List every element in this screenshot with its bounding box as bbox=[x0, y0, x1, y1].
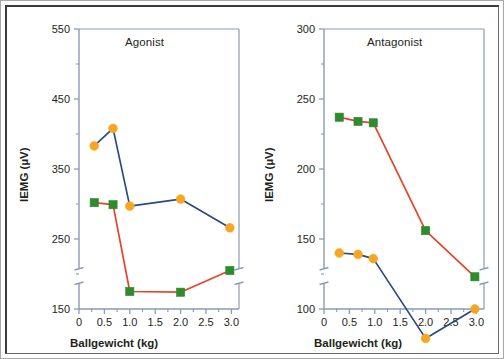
y-tick-label: 100 bbox=[297, 303, 315, 315]
data-point-square bbox=[126, 287, 134, 295]
y-tick-label: 150 bbox=[52, 303, 70, 315]
x-tick-label: 3.0 bbox=[224, 316, 239, 328]
x-tick-label: 3.0 bbox=[469, 316, 484, 328]
y-axis-label-agonist: IEMG (µV) bbox=[18, 147, 30, 202]
figure-outer-frame: 15025035045055000.51.01.52.02.53.0 Agoni… bbox=[0, 0, 504, 359]
x-axis-label-antagonist: Ballgewicht (kg) bbox=[314, 337, 402, 349]
y-tick-label: 250 bbox=[52, 233, 70, 245]
figure-inner-frame: 15025035045055000.51.01.52.02.53.0 Agoni… bbox=[5, 5, 499, 354]
data-point-circle bbox=[369, 254, 378, 263]
x-tick-label: 0.5 bbox=[342, 316, 357, 328]
data-point-square bbox=[354, 117, 362, 125]
data-point-circle bbox=[109, 124, 118, 133]
chart-panel-antagonist: 10015020025030000.51.01.52.02.53.0 Antag… bbox=[254, 7, 499, 356]
data-point-square bbox=[471, 273, 479, 281]
plot-area-antagonist: 10015020025030000.51.01.52.02.53.0 bbox=[254, 7, 499, 356]
data-point-circle bbox=[354, 250, 363, 259]
data-point-circle bbox=[335, 249, 344, 258]
x-tick-label: 1.5 bbox=[148, 316, 163, 328]
y-axis-label-antagonist: IEMG (µV) bbox=[263, 147, 275, 202]
x-tick-label: 0 bbox=[321, 316, 327, 328]
y-tick-label: 200 bbox=[297, 163, 315, 175]
data-point-circle bbox=[176, 195, 185, 204]
x-tick-label: 2.0 bbox=[418, 316, 433, 328]
x-tick-label: 2.0 bbox=[173, 316, 188, 328]
data-point-square bbox=[90, 199, 98, 207]
chart-panel-agonist: 15025035045055000.51.01.52.02.53.0 Agoni… bbox=[7, 7, 254, 356]
x-tick-label: 0.5 bbox=[97, 316, 112, 328]
panel-title-agonist: Agonist bbox=[125, 36, 164, 48]
plot-area-agonist: 15025035045055000.51.01.52.02.53.0 bbox=[7, 7, 254, 356]
data-point-circle bbox=[421, 334, 430, 343]
data-point-square bbox=[335, 113, 343, 121]
x-tick-label: 1.0 bbox=[367, 316, 382, 328]
data-point-circle bbox=[470, 305, 479, 314]
data-point-circle bbox=[90, 142, 99, 151]
data-point-circle bbox=[225, 223, 234, 232]
data-point-circle bbox=[125, 202, 134, 211]
y-tick-label: 350 bbox=[52, 163, 70, 175]
y-tick-label: 250 bbox=[297, 93, 315, 105]
data-point-square bbox=[226, 266, 234, 274]
x-tick-label: 1.0 bbox=[122, 316, 137, 328]
data-point-square bbox=[369, 119, 377, 127]
x-tick-label: 0 bbox=[76, 316, 82, 328]
x-axis-label-agonist: Ballgewicht (kg) bbox=[70, 337, 158, 349]
panel-title-antagonist: Antagonist bbox=[367, 36, 422, 48]
data-point-square bbox=[109, 201, 117, 209]
y-tick-label: 300 bbox=[297, 23, 315, 35]
x-tick-label: 1.5 bbox=[393, 316, 408, 328]
y-tick-label: 150 bbox=[297, 233, 315, 245]
data-point-square bbox=[176, 288, 184, 296]
y-tick-label: 450 bbox=[52, 93, 70, 105]
x-tick-label: 2.5 bbox=[198, 316, 213, 328]
data-point-square bbox=[421, 227, 429, 235]
y-tick-label: 550 bbox=[52, 23, 70, 35]
